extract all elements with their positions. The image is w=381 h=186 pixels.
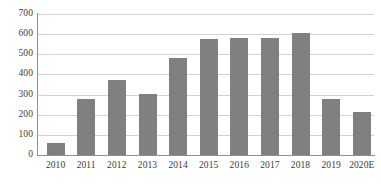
bar-2018 [292, 33, 310, 155]
bar-2020E [353, 112, 371, 155]
bar-2017 [261, 38, 279, 155]
y-tick-label: 700 [3, 9, 33, 19]
x-axis-line [37, 155, 375, 156]
y-tick-label: 200 [3, 110, 33, 120]
bar-2011 [77, 99, 95, 155]
bar-2010 [47, 143, 65, 155]
y-axis-labels: 700 600 500 400 300 200 100 0 [0, 0, 33, 186]
y-tick-label: 600 [3, 29, 33, 39]
bar-2016 [230, 38, 248, 155]
y-tick-label: 500 [3, 49, 33, 59]
x-tick-label: 2020E [342, 160, 381, 171]
y-tick-label: 400 [3, 69, 33, 79]
bar-2019 [322, 99, 340, 155]
bar-2014 [169, 58, 187, 155]
bar-chart: 700 600 500 400 300 200 100 0 2010 20 [0, 0, 381, 186]
x-axis-labels: 2010 2011 2012 2013 2014 2015 2016 2017 … [37, 160, 374, 180]
bar-2013 [139, 94, 157, 155]
bars-layer [37, 14, 374, 155]
y-tick-label: 300 [3, 90, 33, 100]
y-tick-label: 0 [3, 150, 33, 160]
bar-2012 [108, 80, 126, 155]
bar-2015 [200, 39, 218, 155]
y-tick-label: 100 [3, 130, 33, 140]
